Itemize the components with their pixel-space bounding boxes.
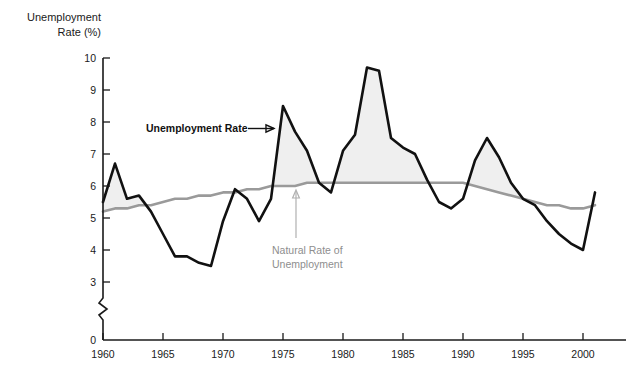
gap-fill-region — [273, 106, 319, 186]
x-tick-label-1965: 1965 — [151, 348, 175, 360]
y-tick-label-10: 10 — [84, 52, 96, 64]
chart-svg: Unemployment Rate (%) 10 9 8 7 6 5 4 3 — [0, 0, 634, 378]
x-tick-label-1970: 1970 — [211, 348, 235, 360]
y-tick-label-7: 7 — [90, 148, 96, 160]
x-tick-label-1995: 1995 — [511, 348, 535, 360]
y-tick-label-6: 6 — [90, 180, 96, 192]
y-tick-label-9: 9 — [90, 84, 96, 96]
y-tick-label-0: 0 — [90, 334, 96, 346]
unemployment-rate-chart: Unemployment Rate (%) 10 9 8 7 6 5 4 3 — [0, 0, 634, 378]
y-axis-title-line1: Unemployment — [27, 11, 101, 23]
x-tick-label-2000: 2000 — [571, 348, 595, 360]
y-tick-label-8: 8 — [90, 116, 96, 128]
x-tick-label-1990: 1990 — [451, 348, 475, 360]
unemployment-rate-annotation-label: Unemployment Rate — [146, 122, 248, 134]
gap-shading-group — [103, 68, 595, 212]
y-axis-title-line2: Rate (%) — [58, 26, 101, 38]
x-tick-label-1985: 1985 — [391, 348, 415, 360]
natural-rate-annotation: Natural Rate of Unemployment — [272, 190, 343, 270]
x-tick-label-1960: 1960 — [91, 348, 115, 360]
x-axis-ticks — [103, 333, 583, 340]
natural-rate-annotation-label-line1: Natural Rate of — [272, 244, 343, 256]
y-tick-label-4: 4 — [90, 244, 96, 256]
y-axis-ticks — [103, 58, 110, 282]
x-tick-label-1980: 1980 — [331, 348, 355, 360]
y-tick-label-5: 5 — [90, 212, 96, 224]
y-tick-label-3: 3 — [90, 276, 96, 288]
x-tick-label-1975: 1975 — [271, 348, 295, 360]
unemployment-rate-annotation: Unemployment Rate — [146, 122, 274, 134]
natural-rate-annotation-label-line2: Unemployment — [272, 258, 343, 270]
